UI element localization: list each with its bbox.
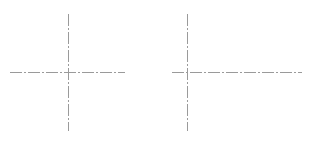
diagram-canvas bbox=[0, 0, 310, 141]
centerline-cross-2 bbox=[172, 14, 302, 131]
centerline-cross-1 bbox=[10, 14, 125, 131]
